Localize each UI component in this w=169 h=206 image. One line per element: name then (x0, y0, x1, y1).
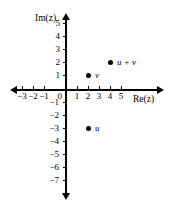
y-tick-label: 4 (46, 32, 60, 41)
y-tick-mark (63, 75, 67, 76)
y-tick-mark (63, 115, 67, 116)
data-point-u-plus-v (108, 60, 113, 65)
y-tick-mark (63, 62, 67, 63)
y-axis-bottom-arrow-icon (62, 193, 70, 200)
y-tick-mark (63, 141, 67, 142)
y-axis-line (65, 19, 67, 195)
y-tick-mark (63, 180, 67, 181)
x-tick-label: 5 (114, 92, 128, 101)
y-tick-label: 3 (46, 45, 60, 54)
y-tick-label: 2 (46, 58, 60, 67)
y-tick-mark (63, 23, 67, 24)
y-axis-top-arrow-icon (62, 13, 70, 20)
y-tick-label: −3 (45, 124, 59, 133)
clipped-header-text (0, 0, 169, 7)
y-tick-mark (63, 102, 67, 103)
y-tick-label: 5 (46, 19, 60, 28)
data-point-label-v: v (95, 71, 99, 80)
x-axis-right-arrow-icon (157, 86, 164, 94)
x-tick-mark (44, 86, 45, 90)
data-point-label-u: u (95, 124, 100, 133)
x-tick-mark (110, 86, 111, 90)
x-tick-mark (121, 86, 122, 90)
data-point-label-u-plus-v: u + v (117, 58, 136, 67)
y-tick-label: −6 (45, 163, 59, 172)
x-tick-mark (22, 86, 23, 90)
y-tick-mark (63, 49, 67, 50)
y-tick-mark (63, 36, 67, 37)
x-tick-mark (88, 86, 89, 90)
x-tick-mark (77, 86, 78, 90)
data-point-u (86, 126, 91, 131)
x-tick-mark (99, 86, 100, 90)
x-tick-mark (33, 86, 34, 90)
y-tick-label: −7 (45, 176, 59, 185)
y-tick-label: −4 (45, 137, 59, 146)
data-point-v (86, 73, 91, 78)
y-tick-mark (63, 128, 67, 129)
y-tick-label: −2 (45, 111, 59, 120)
y-tick-label: 1 (46, 71, 60, 80)
y-tick-label: −1 (45, 98, 59, 107)
y-tick-mark (63, 154, 67, 155)
x-axis-title: Re(z) (133, 94, 154, 104)
y-tick-label: −5 (45, 150, 59, 159)
y-tick-mark (63, 167, 67, 168)
complex-plane-figure: Im(z) Re(z) 0 −3 −2 −1 1 2 3 4 5 5 4 3 2… (0, 0, 169, 206)
